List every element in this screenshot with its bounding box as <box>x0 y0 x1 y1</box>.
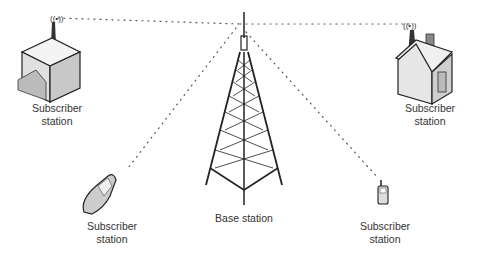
label-line2: station <box>77 233 147 246</box>
subscriber-label-top-right: Subscriber station <box>395 102 465 128</box>
subscriber-label-bottom-right: Subscriber station <box>350 220 420 246</box>
wireless-links <box>58 18 410 178</box>
tower-icon <box>206 12 282 205</box>
signal-icon: ((•)) <box>403 21 417 30</box>
signal-icon: ((•)) <box>50 14 64 23</box>
house-icon: ((•)) <box>396 21 452 104</box>
base-station-label: Base station <box>204 212 284 225</box>
label-line2: station <box>22 115 92 128</box>
label-line1: Subscriber <box>350 220 420 233</box>
flip-phone-icon <box>83 175 116 214</box>
label-line2: station <box>350 233 420 246</box>
subscriber-label-bottom-left: Subscriber station <box>77 220 147 246</box>
label-line2: station <box>395 115 465 128</box>
office-building-icon: ((•)) <box>18 14 80 102</box>
subscriber-label-top-left: Subscriber station <box>22 102 92 128</box>
label-line1: Subscriber <box>395 102 465 115</box>
label-line1: Subscriber <box>77 220 147 233</box>
mobile-phone-icon <box>378 180 388 204</box>
label-line1: Subscriber <box>22 102 92 115</box>
